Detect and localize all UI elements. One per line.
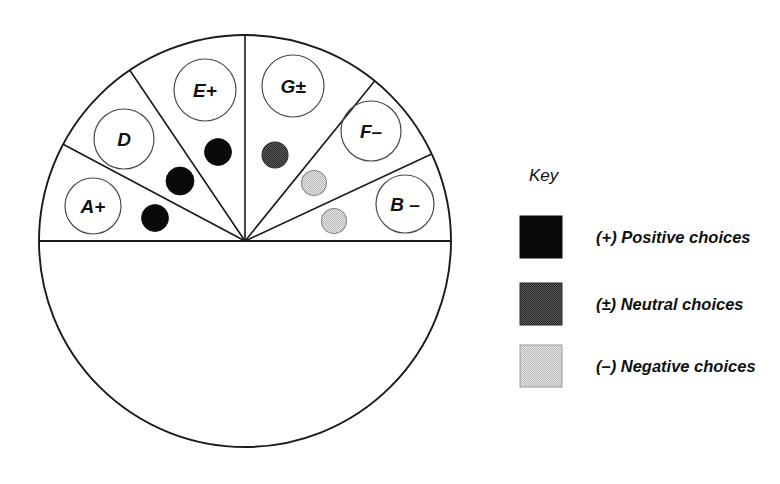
key-entry-group: (+) Positive choices(±) Neutral choices(…: [520, 216, 756, 387]
choice-dot-neutral-3: [262, 142, 288, 168]
key-label-positive: (+) Positive choices: [596, 228, 751, 246]
segment-label-a: A+: [80, 196, 106, 217]
segment-label-g: G±: [280, 76, 306, 97]
segment-label-b: B –: [390, 194, 420, 215]
key-legend: Key (+) Positive choices(±) Neutral choi…: [520, 166, 756, 387]
key-label-neutral: (±) Neutral choices: [596, 295, 744, 313]
key-label-negative: (–) Negative choices: [596, 357, 756, 375]
segment-label-e: E+: [193, 80, 217, 101]
key-swatch-positive: [520, 216, 562, 258]
choice-dot-positive-1: [166, 167, 194, 195]
key-title: Key: [529, 166, 560, 185]
segment-label-f: F–: [360, 121, 383, 142]
key-swatch-neutral: [520, 283, 562, 325]
segmented-circle-diagram: A+DE+G±F–B – Key (+) Positive choices(±)…: [0, 0, 780, 484]
choice-dot-positive-0: [142, 205, 169, 232]
choice-dot-positive-2: [205, 139, 232, 166]
choice-dot-negative-5: [322, 209, 347, 234]
choice-dot-negative-4: [302, 171, 327, 196]
key-swatch-negative: [520, 345, 562, 387]
segment-label-d: D: [117, 129, 131, 150]
